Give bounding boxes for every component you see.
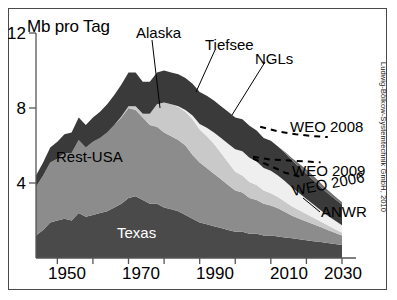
y-tick-label-12: 12 — [0, 24, 26, 44]
x-tick-label-1950: 1950 — [37, 264, 97, 284]
leader-ngls — [232, 62, 265, 115]
leader-tiefsee — [196, 50, 215, 92]
series-label-alaska: Alaska — [136, 24, 181, 41]
y-axis-title: Mb pro Tag — [27, 17, 110, 37]
series-label-tiefsee: Tiefsee — [205, 36, 254, 53]
x-tick-label-2030: 2030 — [313, 264, 373, 284]
series-label-texas: Texas — [117, 224, 156, 241]
x-tick-label-1970: 1970 — [111, 264, 171, 284]
projection-label-weo-2008: WEO 2008 — [290, 118, 363, 135]
x-tick-label-2010: 2010 — [259, 264, 319, 284]
series-label-rest-usa: Rest-USA — [56, 148, 123, 165]
y-tick-label-8: 8 — [0, 99, 26, 119]
x-tick-label-1990: 1990 — [185, 264, 245, 284]
source-credit: Ludwig-Bölkow-Systemtechnik GmbH, 2010 — [379, 62, 388, 212]
series-label-ngls: NGLs — [255, 50, 293, 67]
y-tick-label-4: 4 — [0, 174, 26, 194]
series-label-anwr: ANWR — [321, 203, 367, 220]
